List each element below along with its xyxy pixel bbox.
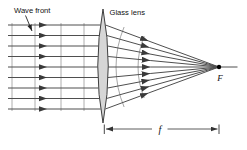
- refracted-ray: [107, 67, 220, 99]
- glass-lens-label: Glass lens: [110, 8, 146, 17]
- refracted-ray: [108, 46, 219, 67]
- diagram-canvas: F f Wave front Glass lens: [0, 0, 247, 150]
- focal-point-label: F: [216, 73, 223, 83]
- wave-front-leader-arrow: [26, 16, 33, 32]
- glass-lens: [98, 9, 109, 123]
- incident-rays: [8, 25, 101, 109]
- refracted-ray: [106, 25, 220, 67]
- focal-length-dimension: [104, 125, 219, 135]
- refracted-ray: [107, 36, 219, 68]
- lens-diagram: F f Wave front Glass lens: [0, 0, 247, 150]
- refracted-ray: [108, 57, 219, 68]
- wave-front-label: Wave front: [14, 6, 51, 15]
- refracted-ray: [108, 67, 220, 88]
- focal-point-dot: [217, 65, 221, 69]
- refracted-ray: [105, 67, 219, 109]
- focal-length-label: f: [159, 124, 163, 135]
- refracted-ray: [108, 67, 219, 78]
